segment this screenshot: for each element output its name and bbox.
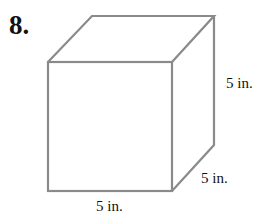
cube-diagram — [0, 0, 277, 224]
width-label: 5 in. — [96, 199, 123, 214]
cube-top-face — [48, 16, 214, 62]
cube-right-face — [172, 16, 214, 191]
cube-front-face — [48, 62, 172, 191]
depth-label: 5 in. — [201, 171, 228, 186]
height-label: 5 in. — [226, 76, 253, 91]
